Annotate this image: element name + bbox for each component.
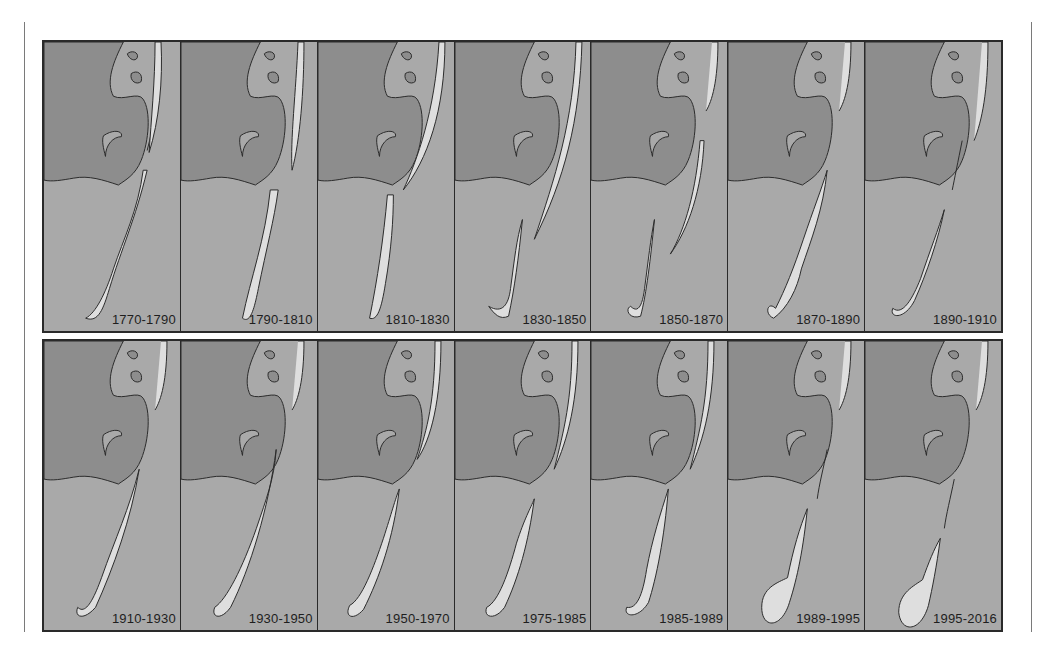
period-label: 1790-1810 <box>249 312 313 327</box>
period-label: 1830-1850 <box>522 312 586 327</box>
map-row-top: 1770-1790 1790-1810 1810-1830 1830-1850 … <box>42 40 1003 333</box>
map-panel: 1975-1985 <box>455 341 592 630</box>
left-margin-line <box>24 22 25 632</box>
right-margin-line <box>1031 22 1032 632</box>
period-label: 1850-1870 <box>659 312 723 327</box>
period-label: 1810-1830 <box>386 312 450 327</box>
map-panel: 1890-1910 <box>865 42 1001 331</box>
period-label: 1950-1970 <box>386 611 450 626</box>
period-label: 1870-1890 <box>796 312 860 327</box>
map-panel: 1830-1850 <box>455 42 592 331</box>
map-panel: 1989-1995 <box>728 341 865 630</box>
map-panel: 1995-2016 <box>865 341 1001 630</box>
map-row-bottom: 1910-1930 1930-1950 1950-1970 1975-1985 … <box>42 339 1003 632</box>
map-panel: 1930-1950 <box>181 341 318 630</box>
period-label: 1890-1910 <box>933 312 997 327</box>
period-label: 1989-1995 <box>796 611 860 626</box>
map-panel: 1950-1970 <box>318 341 455 630</box>
period-label: 1930-1950 <box>249 611 313 626</box>
map-panel: 1850-1870 <box>591 42 728 331</box>
map-panel: 1790-1810 <box>181 42 318 331</box>
period-label: 1975-1985 <box>522 611 586 626</box>
map-panel: 1770-1790 <box>44 42 181 331</box>
map-panel: 1870-1890 <box>728 42 865 331</box>
map-panel: 1985-1989 <box>591 341 728 630</box>
period-label: 1985-1989 <box>659 611 723 626</box>
map-panel: 1910-1930 <box>44 341 181 630</box>
period-label: 1910-1930 <box>112 611 176 626</box>
period-label: 1995-2016 <box>933 611 997 626</box>
map-panel: 1810-1830 <box>318 42 455 331</box>
period-label: 1770-1790 <box>112 312 176 327</box>
